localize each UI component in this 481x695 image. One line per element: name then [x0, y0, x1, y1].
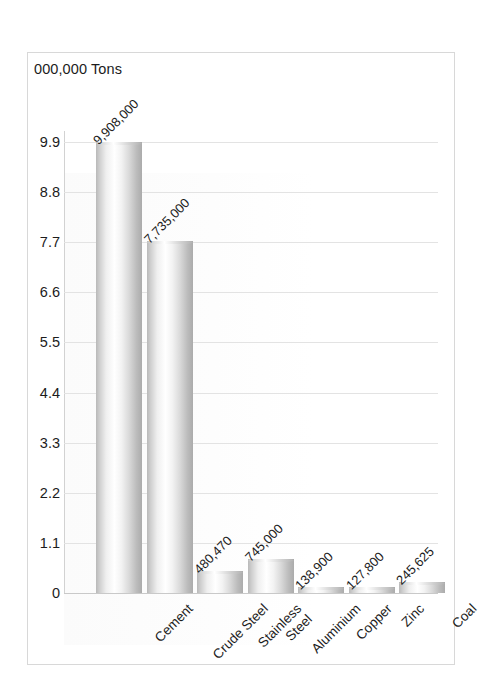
bar [248, 559, 294, 593]
chart-frame: 000,000 Tons 01.12.23.34.45.56.67.78.89.… [27, 52, 455, 665]
plot-area: 01.12.23.34.45.56.67.78.89.9 9,908,0007,… [28, 53, 454, 664]
bar [147, 241, 193, 593]
bar [96, 142, 142, 593]
bar-series [28, 53, 454, 666]
